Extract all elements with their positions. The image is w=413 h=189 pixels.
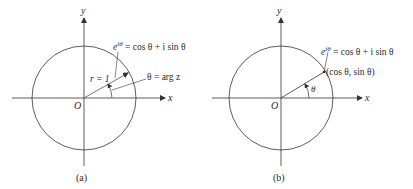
angle-label: θ = arg z <box>147 72 180 82</box>
y-axis-label: y <box>80 5 86 16</box>
caption-a: (a) <box>76 172 87 184</box>
x-axis-label: x <box>364 92 370 103</box>
angle-arc <box>108 84 112 98</box>
euler-formula-label: eiθ = cos θ + i sin θ <box>321 45 394 57</box>
point-label: (cos θ, sin θ) <box>326 67 375 78</box>
angle-arc <box>305 84 309 98</box>
angle-leader-line <box>112 79 146 90</box>
caption-b: (b) <box>273 172 285 184</box>
radius-label: r = 1 <box>90 74 110 84</box>
y-axis-label: y <box>276 5 282 16</box>
angle-label: θ <box>311 84 316 94</box>
euler-leader-line <box>115 52 118 78</box>
origin-label: O <box>74 100 81 111</box>
origin-label: O <box>271 100 278 111</box>
euler-formula-label: eiθ = cos θ + i sin θ <box>113 40 186 52</box>
euler-rest: = cos θ + i sin θ <box>123 42 186 52</box>
euler-rest: = cos θ + i sin θ <box>331 47 394 57</box>
x-axis-label: x <box>167 92 173 103</box>
radius-line <box>281 72 324 98</box>
panel-b: y x O θ eiθ = cos θ + i sin θ (cos θ, si… <box>212 5 394 184</box>
unit-circle-diagrams: y x O r = 1 eiθ = cos θ + i sin θ θ = ar… <box>0 0 413 189</box>
panel-a: y x O r = 1 eiθ = cos θ + i sin θ θ = ar… <box>12 5 186 184</box>
